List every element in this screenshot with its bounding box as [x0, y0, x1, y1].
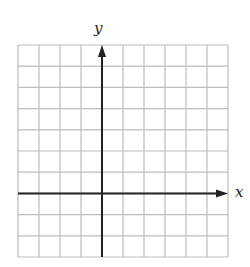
y-axis-label: y: [94, 21, 102, 36]
x-axis-label: x: [235, 185, 243, 200]
x-axis-arrow-icon: [216, 189, 228, 197]
grid-lines: [18, 45, 228, 257]
y-axis-arrow-icon: [98, 45, 106, 57]
coordinate-grid: [0, 0, 250, 267]
